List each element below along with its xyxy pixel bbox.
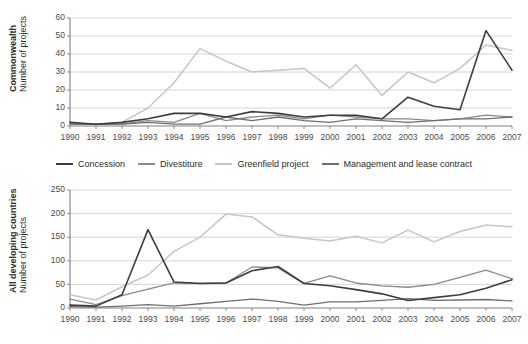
x-tick-label: 1997: [243, 314, 262, 324]
y-tick-label: 0: [60, 120, 65, 130]
x-tick-label: 2001: [347, 314, 366, 324]
x-tick-label: 1994: [165, 132, 184, 142]
legend-item-greenfield-project[interactable]: Greenfield project: [215, 159, 308, 169]
x-tick-label: 1991: [87, 132, 106, 142]
x-tick-label: 2000: [321, 314, 340, 324]
y-tick-label: 40: [56, 48, 66, 58]
y-tick-label: 0: [60, 302, 65, 312]
x-tick-label: 2005: [451, 314, 470, 324]
x-tick-label: 2007: [503, 314, 522, 324]
legend-label: Management and lease contract: [344, 159, 473, 169]
y-tick-label: 250: [51, 184, 65, 194]
x-tick-label: 1996: [217, 314, 236, 324]
legend-swatch-icon: [56, 163, 73, 165]
x-tick-label: 2006: [477, 132, 496, 142]
x-tick-label: 2001: [347, 132, 366, 142]
y-axis-title-commonwealth: Commonwealth Number of projects: [8, 16, 28, 92]
x-tick-label: 2002: [373, 132, 392, 142]
series-line-concession: [70, 230, 512, 306]
x-tick-label: 1990: [61, 132, 80, 142]
x-tick-label: 1995: [191, 314, 210, 324]
x-tick-label: 2003: [399, 132, 418, 142]
x-tick-label: 1992: [113, 132, 132, 142]
series-line-greenfield-project: [70, 45, 512, 124]
x-tick-label: 1995: [191, 132, 210, 142]
x-tick-label: 1997: [243, 132, 262, 142]
legend-swatch-icon: [138, 163, 155, 165]
series-line-concession: [70, 31, 512, 125]
legend-label: Divestiture: [160, 159, 203, 169]
series-line-divestiture: [70, 267, 512, 305]
y-tick-label: 100: [51, 255, 65, 265]
chart-panel-commonwealth: Commonwealth Number of projects 01020304…: [0, 0, 528, 150]
legend-item-management-and-lease-contract[interactable]: Management and lease contract: [322, 159, 473, 169]
legend-swatch-icon: [322, 163, 339, 165]
x-tick-label: 1994: [165, 314, 184, 324]
x-tick-label: 1991: [87, 314, 106, 324]
chart-svg-commonwealth: 0102030405060199019911992199319941995199…: [0, 0, 528, 150]
figure-two-panel-line-charts: Commonwealth Number of projects 01020304…: [0, 0, 528, 344]
y-tick-label: 50: [56, 279, 66, 289]
x-tick-label: 1999: [295, 132, 314, 142]
x-tick-label: 2006: [477, 314, 496, 324]
y-tick-label: 60: [56, 12, 66, 22]
x-tick-label: 2004: [425, 314, 444, 324]
y-tick-label: 50: [56, 30, 66, 40]
x-tick-label: 1993: [139, 132, 158, 142]
x-tick-label: 1993: [139, 314, 158, 324]
legend-label: Concession: [78, 159, 125, 169]
x-tick-label: 2002: [373, 314, 392, 324]
chart-svg-all-developing-countries: 0501001502002501990199119921993199419951…: [0, 178, 528, 344]
legend-label: Greenfield project: [237, 159, 308, 169]
x-tick-label: 2005: [451, 132, 470, 142]
y-tick-label: 10: [56, 102, 66, 112]
x-tick-label: 1999: [295, 314, 314, 324]
x-tick-label: 1992: [113, 314, 132, 324]
x-tick-label: 2003: [399, 314, 418, 324]
x-tick-label: 1998: [269, 314, 288, 324]
x-tick-label: 2007: [503, 132, 522, 142]
x-tick-label: 2000: [321, 132, 340, 142]
x-tick-label: 2004: [425, 132, 444, 142]
y-tick-label: 150: [51, 231, 65, 241]
legend-item-divestiture[interactable]: Divestiture: [138, 159, 203, 169]
y-tick-label: 30: [56, 66, 66, 76]
x-tick-label: 1990: [61, 314, 80, 324]
x-tick-label: 1998: [269, 132, 288, 142]
legend-items-row: ConcessionDivestitureGreenfield projectM…: [0, 150, 528, 178]
chart-legend: ConcessionDivestitureGreenfield projectM…: [0, 150, 528, 178]
y-axis-title-all-developing-countries: All developing countries Number of proje…: [8, 188, 28, 293]
y-tick-label: 20: [56, 84, 66, 94]
x-tick-label: 1996: [217, 132, 236, 142]
series-line-management-and-lease-contract: [70, 299, 512, 308]
legend-swatch-icon: [215, 163, 232, 165]
chart-panel-all-developing-countries: All developing countries Number of proje…: [0, 178, 528, 344]
y-tick-label: 200: [51, 208, 65, 218]
legend-item-concession[interactable]: Concession: [56, 159, 125, 169]
